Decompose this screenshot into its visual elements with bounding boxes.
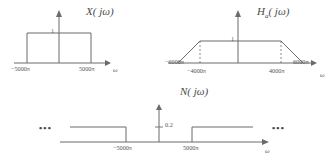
- amplitude-label-0.2: 0.2: [165, 122, 173, 128]
- tick-label-5000pi: 5000π: [79, 66, 95, 72]
- right-ellipsis: •••: [272, 124, 285, 133]
- figure-container: X( jω) 1 −5000π 5000π ω Ha( jω) 1 −6000π…: [0, 0, 334, 162]
- x-axis-label-omega: ω: [320, 72, 325, 79]
- x-axis-label-omega: ω: [265, 148, 270, 155]
- y-axis-arrow: [235, 10, 241, 17]
- amplitude-label-1: 1: [231, 36, 234, 42]
- tick-label-neg-4000pi: −4000π: [187, 68, 206, 74]
- tick-label-neg-5000pi: −5000π: [113, 145, 132, 151]
- title-main-h: H: [257, 5, 265, 17]
- tick-label-5000pi: 5000π: [183, 145, 199, 151]
- x-axis-arrow: [262, 139, 269, 145]
- y-axis-arrow: [56, 10, 62, 17]
- plot-title-n: N( jω): [180, 86, 208, 97]
- tick-label-neg-6000pi: −6000π: [165, 59, 184, 65]
- tick-label-6000pi: 6000π: [293, 59, 309, 65]
- plot-noise-spectrum: N( jω) 0.2 −5000π 5000π ω ••• •••: [0, 80, 334, 162]
- left-band-trace: [70, 127, 126, 142]
- plot-title-x: X( jω): [86, 6, 114, 17]
- x-axis-arrow: [105, 60, 111, 66]
- right-band-trace: [192, 127, 253, 142]
- left-ellipsis: •••: [39, 124, 52, 133]
- title-rest-jomega: ( jω): [268, 5, 289, 17]
- amplitude-label-1: 1: [51, 28, 54, 34]
- x-axis-label-omega: ω: [113, 67, 118, 74]
- plot-title-ha: Ha( jω): [257, 6, 289, 20]
- tick-label-neg-5000pi: −5000π: [11, 66, 30, 72]
- plot-signal-spectrum: X( jω) 1 −5000π 5000π ω: [0, 0, 167, 81]
- y-axis-arrow: [156, 104, 162, 110]
- plot-filter-response: Ha( jω) 1 −6000π −4000π 4000π 6000π ω: [165, 0, 334, 81]
- tick-label-4000pi: 4000π: [269, 68, 285, 74]
- trapezoid-trace: [178, 41, 303, 63]
- x-axis-arrow: [311, 60, 317, 66]
